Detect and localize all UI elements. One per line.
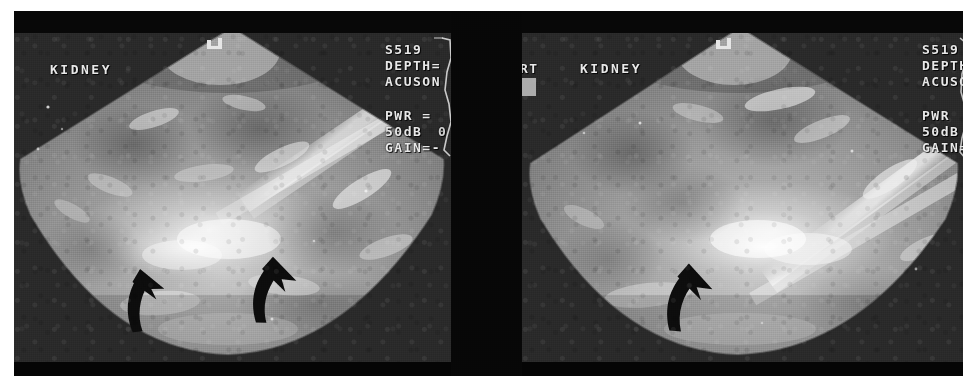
top-black-band-right [522,11,963,33]
sector-image-right [522,33,963,362]
ultrasound-panel-right: RT KIDNEY S519 DEPTH ACUSO PWR 50dB GAIN… [522,11,963,376]
scan-area-left [14,33,451,362]
panel-gutter [451,11,522,376]
scan-area-right [522,33,963,362]
ultrasound-figure: KIDNEY S519 DEPTH= ACUSON PWR = 50dB 0 G… [0,0,979,391]
top-black-band-left [14,11,451,33]
bottom-black-band-right [522,362,963,376]
ultrasound-panel-left: KIDNEY S519 DEPTH= ACUSON PWR = 50dB 0 G… [14,11,451,376]
bottom-black-band-left [14,362,451,376]
orientation-marker-square-right [522,78,536,96]
sector-image-left [14,33,451,362]
